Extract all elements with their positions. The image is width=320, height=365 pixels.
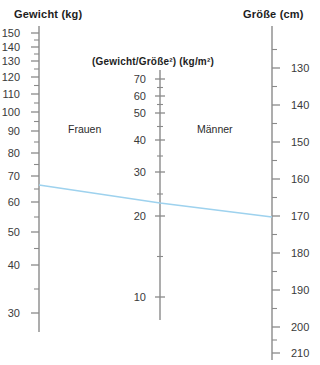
svg-text:160: 160: [291, 173, 309, 185]
svg-text:70: 70: [134, 73, 146, 85]
height-axis: 130140150160170180190200210: [272, 26, 309, 360]
svg-text:150: 150: [291, 136, 309, 148]
connection-line-layer: [39, 185, 272, 217]
svg-text:120: 120: [2, 71, 20, 83]
svg-text:50: 50: [8, 226, 20, 238]
connection-line: [39, 185, 272, 217]
svg-text:50: 50: [134, 107, 146, 119]
svg-text:100: 100: [2, 106, 20, 118]
svg-text:110: 110: [2, 88, 20, 100]
nomogram-canvas: 15014013012011010090807060504030 7060504…: [0, 0, 320, 365]
svg-text:80: 80: [8, 147, 20, 159]
svg-text:10: 10: [134, 291, 146, 303]
weight-axis: 15014013012011010090807060504030: [2, 26, 39, 332]
svg-text:30: 30: [134, 166, 146, 178]
svg-text:40: 40: [8, 259, 20, 271]
svg-text:60: 60: [134, 90, 146, 102]
svg-text:210: 210: [291, 347, 309, 359]
svg-text:40: 40: [134, 134, 146, 146]
svg-text:130: 130: [291, 62, 309, 74]
svg-text:190: 190: [291, 284, 309, 296]
bmi-nomogram: Gewicht (kg) Größe (cm) (Gewicht/Größe²)…: [0, 0, 320, 365]
svg-text:200: 200: [291, 321, 309, 333]
svg-text:90: 90: [8, 125, 20, 137]
svg-text:130: 130: [2, 55, 20, 67]
svg-text:30: 30: [8, 307, 20, 319]
svg-text:140: 140: [2, 41, 20, 53]
svg-text:70: 70: [8, 170, 20, 182]
svg-text:20: 20: [134, 210, 146, 222]
svg-text:140: 140: [291, 99, 309, 111]
svg-text:60: 60: [8, 196, 20, 208]
svg-text:180: 180: [291, 247, 309, 259]
svg-text:170: 170: [291, 210, 309, 222]
bmi-axis: 70605040302010: [134, 70, 165, 320]
svg-text:150: 150: [2, 27, 20, 39]
